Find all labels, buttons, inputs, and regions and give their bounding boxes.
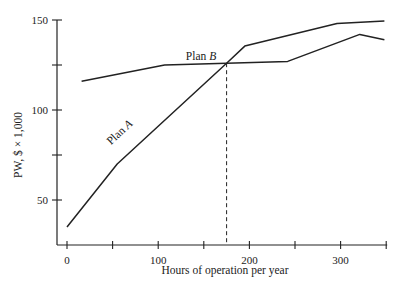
- plan-a-label: Plan A: [104, 117, 135, 147]
- plan-b-label: Plan B: [186, 50, 216, 62]
- x-axis-label: Hours of operation per year: [161, 264, 288, 277]
- y-tick-label: 50: [37, 194, 49, 206]
- y-tick-label: 150: [32, 14, 49, 26]
- chart: 0100200300 50100150 Hours of operation p…: [0, 0, 399, 299]
- x-tick-label: 0: [64, 254, 70, 266]
- y-tick-label: 100: [32, 104, 49, 116]
- series-group: [67, 21, 384, 227]
- series-plan-a: [67, 21, 384, 227]
- axes: [57, 20, 387, 245]
- x-tick-label: 300: [332, 254, 349, 266]
- y-axis-label: PW, $ × 1,000: [12, 112, 25, 178]
